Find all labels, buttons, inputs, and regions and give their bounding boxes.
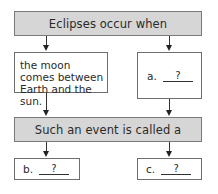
- connector-left-to-middle: [46, 93, 47, 111]
- answer-box-c: c. ?: [137, 158, 202, 180]
- middle-header-text: Such an event is called a: [35, 123, 181, 137]
- arrow-down-icon: [166, 110, 172, 116]
- top-header-text: Eclipses occur when: [49, 17, 167, 31]
- cause-text: the moon comes between Earth and the sun…: [20, 59, 103, 107]
- arrow-down-icon: [43, 151, 49, 157]
- arrow-down-icon: [43, 45, 49, 51]
- answer-label-a: a.: [147, 70, 157, 82]
- answer-label-c: c.: [146, 163, 155, 175]
- answer-box-b: b. ?: [14, 158, 80, 180]
- answer-blank-b[interactable]: ?: [39, 163, 69, 175]
- top-header-box: Eclipses occur when: [14, 11, 202, 36]
- answer-box-a: a. ?: [137, 52, 202, 99]
- answer-blank-a[interactable]: ?: [163, 70, 193, 82]
- cause-box: the moon comes between Earth and the sun…: [14, 52, 108, 93]
- arrow-down-icon: [43, 110, 49, 116]
- answer-label-b: b.: [23, 163, 33, 175]
- arrow-down-icon: [166, 151, 172, 157]
- middle-header-box: Such an event is called a: [14, 117, 202, 142]
- answer-blank-c[interactable]: ?: [161, 163, 191, 175]
- arrow-down-icon: [166, 45, 172, 51]
